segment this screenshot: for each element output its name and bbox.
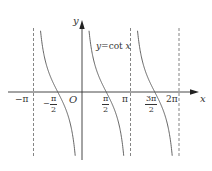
tick-num: 3π	[145, 95, 157, 105]
x-axis-label: x	[200, 94, 206, 104]
x-axis-arrow-icon	[190, 89, 199, 94]
origin-label: O	[69, 95, 77, 105]
tick-label-neg-half-pi: π 2	[50, 95, 57, 114]
tick-label-neg-pi: −π	[15, 95, 28, 104]
tick-den: 2	[102, 105, 109, 114]
function-label-eq: =cot	[101, 41, 125, 51]
tick-label-three-half-pi: 3π 2	[145, 95, 157, 114]
tick-neg-sign: −	[43, 100, 50, 108]
tick-label-two-pi: 2π	[166, 95, 178, 104]
tick-den: 2	[145, 105, 157, 114]
tick-num: π	[102, 95, 109, 105]
tick-label-pi: π	[122, 95, 128, 104]
tick-den: 2	[50, 105, 57, 114]
function-label: y=cot x	[96, 42, 131, 51]
y-axis-arrow-icon	[79, 20, 84, 29]
cot-graph	[0, 0, 212, 171]
y-axis-label: y	[73, 16, 79, 26]
function-label-x: x	[126, 41, 131, 51]
tick-num: π	[50, 95, 57, 105]
tick-label-half-pi: π 2	[102, 95, 109, 114]
